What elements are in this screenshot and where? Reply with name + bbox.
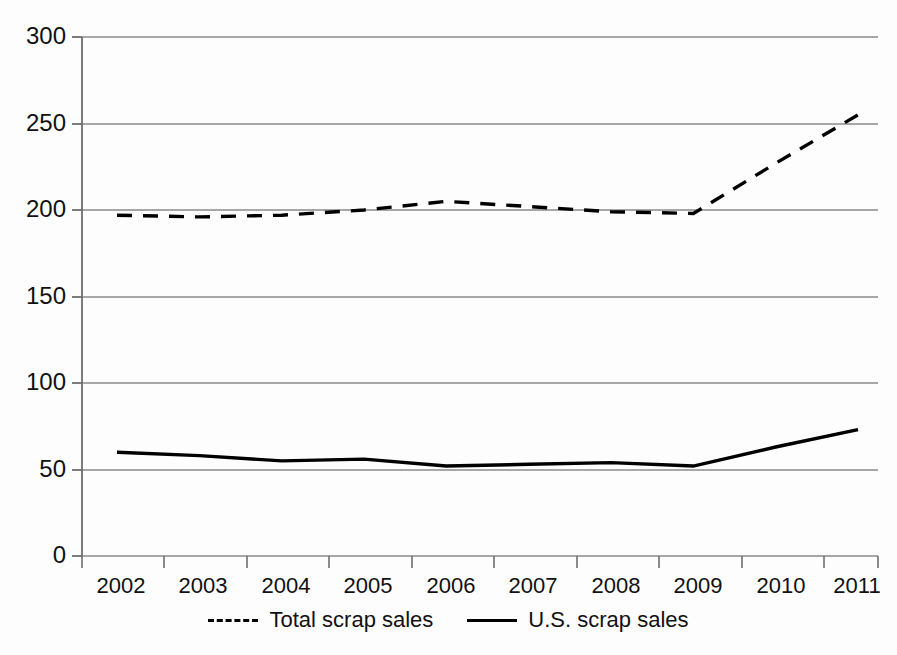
y-tick-label-0: 0 — [6, 541, 66, 569]
legend-label-us-scrap-sales: U.S. scrap sales — [528, 607, 688, 633]
x-tick-label-2010: 2010 — [738, 573, 824, 599]
x-tick-label-2007: 2007 — [490, 573, 576, 599]
legend-label-total-scrap-sales: Total scrap sales — [269, 607, 433, 633]
x-tick-label-2009: 2009 — [655, 573, 741, 599]
plot-area — [0, 0, 897, 655]
x-tick-label-2002: 2002 — [78, 573, 164, 599]
y-tick-label-100: 100 — [6, 368, 66, 396]
x-tick-label-2004: 2004 — [243, 573, 329, 599]
gridlines — [82, 37, 878, 556]
y-tick-label-50: 50 — [6, 455, 66, 483]
series-line-us-scrap-sales — [117, 430, 858, 466]
line-chart: 300 250 200 150 100 50 0 2002 2003 2004 … — [0, 0, 897, 655]
series-line-total-scrap-sales — [117, 115, 858, 217]
x-tick-label-2011: 2011 — [814, 573, 897, 599]
y-tick-label-200: 200 — [6, 195, 66, 223]
legend-entry-total-scrap-sales: Total scrap sales — [208, 607, 433, 633]
x-axis-ticks — [82, 556, 878, 568]
x-tick-label-2005: 2005 — [325, 573, 411, 599]
y-tick-label-150: 150 — [6, 282, 66, 310]
solid-line-swatch-icon — [467, 613, 517, 627]
x-tick-label-2003: 2003 — [160, 573, 246, 599]
dashed-line-swatch-icon — [208, 613, 258, 627]
chart-legend: Total scrap sales U.S. scrap sales — [0, 607, 897, 633]
y-axis-ticks — [72, 37, 82, 556]
y-tick-label-250: 250 — [6, 109, 66, 137]
x-tick-label-2006: 2006 — [408, 573, 494, 599]
legend-entry-us-scrap-sales: U.S. scrap sales — [467, 607, 688, 633]
x-tick-label-2008: 2008 — [573, 573, 659, 599]
y-tick-label-300: 300 — [6, 22, 66, 50]
